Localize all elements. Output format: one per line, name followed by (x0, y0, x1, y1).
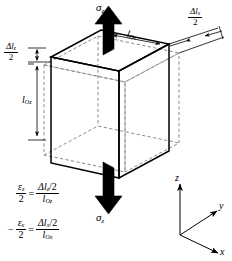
equation-x-operator: = (26, 224, 36, 235)
axis-x-line (180, 235, 218, 253)
axis-label-z: z (175, 173, 179, 183)
equation-strain-x: − εx 2 = Δlx/2 lOx (6, 218, 59, 241)
l-oz-label: lOz (22, 95, 32, 106)
axis-label-y: y (219, 201, 223, 211)
axis-label-x: x (220, 247, 224, 257)
stress-label-top: σz (96, 2, 104, 14)
equation-sign-x: − (6, 224, 16, 235)
stress-label-bottom: σz (96, 212, 104, 224)
delta-lz-half-label: Δlz 2 (4, 42, 18, 63)
right-dimension-lines (169, 26, 224, 53)
axis-y-line (180, 211, 217, 235)
equation-z-lhs: εz 2 (16, 182, 26, 205)
l-ox-label: lOx (126, 29, 138, 41)
equation-x-lhs: εx 2 (16, 218, 27, 241)
equation-x-rhs: Δlx/2 lOx (36, 218, 59, 241)
coordinate-axes (180, 184, 218, 253)
equation-z-rhs: Δlz/2 lOz (36, 182, 59, 205)
deformed-cube-outline (51, 30, 169, 178)
delta-lx-half-label: Δlx 2 (188, 7, 202, 28)
equation-strain-z: εz 2 = Δlz/2 lOz (12, 182, 59, 205)
figure-canvas: σz σz Δlz 2 lOz lOx Δlx 2 εz 2 = Δlz/2 (0, 0, 232, 261)
left-dimension-lines (28, 48, 50, 140)
equation-z-operator: = (26, 188, 36, 199)
